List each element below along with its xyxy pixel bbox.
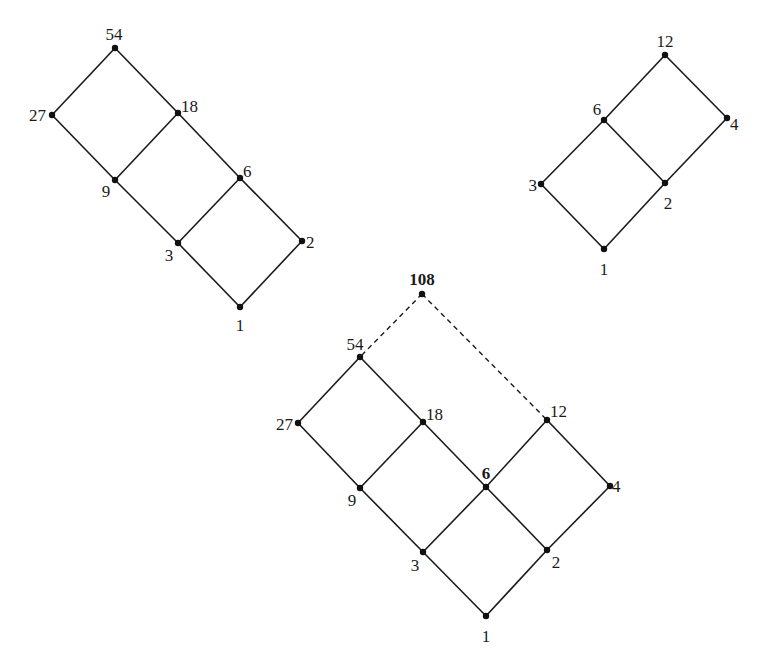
edge-27-9 — [298, 423, 360, 488]
edge-54-18 — [115, 48, 178, 113]
node-3: 3 — [411, 549, 426, 575]
edge-12-6 — [486, 420, 547, 487]
edge-6-2 — [240, 178, 302, 241]
edges — [52, 48, 302, 307]
node-3: 3 — [529, 176, 545, 195]
node-label: 6 — [593, 100, 602, 119]
node-4: 4 — [607, 477, 621, 496]
node-dot — [357, 354, 363, 360]
edge-9-3 — [360, 488, 423, 552]
node-label: 12 — [550, 402, 567, 421]
node-label: 27 — [276, 415, 294, 434]
node-label: 2 — [306, 233, 315, 252]
edges — [541, 55, 727, 249]
edge-6-3 — [178, 178, 240, 243]
edge-6-2 — [486, 487, 547, 550]
edge-3-1 — [541, 184, 604, 249]
node-label: 108 — [409, 270, 435, 289]
node-label: 1 — [482, 627, 491, 646]
node-dot — [295, 420, 301, 426]
node-dot — [483, 484, 489, 490]
node-dot — [538, 181, 544, 187]
edge-6-3 — [541, 120, 604, 184]
node-dot — [175, 240, 181, 246]
edge-2-1 — [604, 183, 665, 249]
node-dot — [662, 180, 668, 186]
node-2: 2 — [544, 547, 560, 572]
edge-12-4 — [665, 55, 727, 118]
edge-54-27 — [298, 357, 360, 423]
node-54: 54 — [106, 25, 124, 51]
node-1: 1 — [482, 613, 491, 646]
node-label: 1 — [600, 260, 609, 279]
node-dot — [544, 547, 550, 553]
edge-6-2 — [604, 120, 665, 183]
node-12: 12 — [544, 402, 567, 423]
node-dot — [112, 177, 118, 183]
edge-2-1 — [486, 550, 547, 616]
node-6: 6 — [237, 162, 252, 181]
node-label: 9 — [348, 491, 357, 510]
node-label: 2 — [664, 194, 673, 213]
edge-9-3 — [115, 180, 178, 243]
edge-4-2 — [665, 118, 727, 183]
edge-54-27 — [52, 48, 115, 115]
node-label: 6 — [482, 464, 491, 483]
node-dot — [601, 246, 607, 252]
edge-54-18 — [360, 357, 423, 422]
node-9: 9 — [102, 177, 118, 201]
node-dot — [357, 485, 363, 491]
edge-12-4 — [547, 420, 610, 486]
node-dot — [662, 52, 668, 58]
node-6: 6 — [482, 464, 491, 490]
edge-12-6 — [604, 55, 665, 120]
node-label: 3 — [411, 556, 420, 575]
edge-108-12 — [422, 294, 547, 420]
node-label: 3 — [165, 246, 174, 265]
edge-108-54 — [360, 294, 422, 357]
node-27: 27 — [276, 415, 301, 434]
node-108: 108 — [409, 270, 435, 297]
diagram-divisors-108: 10854271812964321 — [276, 270, 621, 646]
hasse-diagrams-figure: 54271896321 1264321 10854271812964321 — [0, 0, 762, 669]
edge-6-3 — [423, 487, 486, 552]
node-1: 1 — [236, 304, 245, 335]
node-9: 9 — [348, 485, 363, 510]
edge-18-9 — [115, 113, 178, 180]
node-12: 12 — [657, 32, 674, 58]
node-label: 6 — [243, 162, 252, 181]
node-dot — [49, 112, 55, 118]
node-54: 54 — [347, 335, 365, 360]
node-label: 9 — [102, 182, 111, 201]
node-label: 3 — [529, 176, 538, 195]
edge-18-6 — [178, 113, 240, 178]
node-3: 3 — [165, 240, 181, 265]
node-dot — [419, 291, 425, 297]
edge-18-6 — [423, 422, 486, 487]
node-label: 4 — [730, 115, 739, 134]
node-label: 18 — [181, 97, 198, 116]
node-dot — [299, 238, 305, 244]
edge-2-1 — [240, 241, 302, 307]
node-4: 4 — [724, 115, 739, 134]
node-label: 54 — [106, 25, 124, 44]
node-2: 2 — [662, 180, 672, 213]
edge-18-9 — [360, 422, 423, 488]
node-dot — [483, 613, 489, 619]
edge-4-2 — [547, 486, 610, 550]
node-label: 2 — [552, 553, 561, 572]
diagram-divisors-12: 1264321 — [529, 32, 740, 279]
node-dot — [237, 304, 243, 310]
node-label: 27 — [29, 106, 47, 125]
node-label: 1 — [236, 316, 245, 335]
node-6: 6 — [593, 100, 607, 123]
node-2: 2 — [299, 233, 315, 252]
edge-3-1 — [423, 552, 486, 616]
edge-27-9 — [52, 115, 115, 180]
node-label: 12 — [657, 32, 674, 51]
node-18: 18 — [175, 97, 198, 116]
node-27: 27 — [29, 106, 55, 125]
edges — [298, 294, 610, 616]
node-dot — [112, 45, 118, 51]
node-label: 4 — [612, 477, 621, 496]
